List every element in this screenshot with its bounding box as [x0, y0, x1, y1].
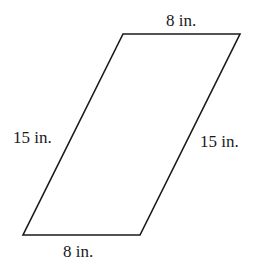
top-side-label: 8 in. — [166, 11, 196, 30]
right-side-label: 15 in. — [200, 132, 239, 151]
parallelogram-diagram: 8 in. 15 in. 15 in. 8 in. — [0, 0, 255, 269]
bottom-side-label: 8 in. — [63, 242, 93, 261]
left-side-label: 15 in. — [13, 128, 52, 147]
